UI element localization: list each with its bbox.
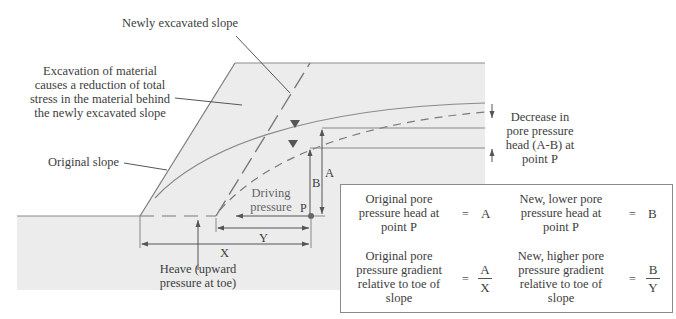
legend-value-a: A xyxy=(481,206,490,222)
leader-original-slope xyxy=(124,163,167,170)
pore-pressure-diagram: Newly excavated slope Excavation of mate… xyxy=(0,0,676,319)
label-driving-pressure: Driving pressure xyxy=(242,186,300,214)
label-heave-note: Heave (upward pressure at toe) xyxy=(153,262,243,290)
label-dimension-a: A xyxy=(325,166,334,180)
label-decrease-note: Decrease in pore pressure head (A-B) at … xyxy=(500,110,580,166)
legend-new-head-text: New, lower pore pressure head at point P xyxy=(511,192,611,234)
legend-equals: = xyxy=(629,207,636,222)
legend-value-b: B xyxy=(648,206,657,222)
legend-fraction-b-over-y: B Y xyxy=(646,262,660,295)
label-newly-excavated-slope: Newly excavated slope xyxy=(122,16,238,30)
legend-fraction-a-over-x: A X xyxy=(478,262,492,295)
label-original-slope: Original slope xyxy=(48,155,119,169)
label-point-p: P xyxy=(300,201,307,215)
legend-new-gradient-text: New, higher pore pressure gradient relat… xyxy=(511,249,611,305)
label-excavation-note: Excavation of material causes a reductio… xyxy=(20,64,180,120)
legend-equals: = xyxy=(462,272,469,287)
label-dimension-b: B xyxy=(312,176,320,190)
legend-equals: = xyxy=(462,207,469,222)
legend-equals: = xyxy=(629,272,636,287)
legend-box: Original pore pressure head at point P =… xyxy=(340,184,673,313)
label-dimension-y: Y xyxy=(259,231,268,245)
label-dimension-x: X xyxy=(220,246,229,260)
legend-original-head-text: Original pore pressure head at point P xyxy=(349,192,449,234)
legend-original-gradient-text: Original pore pressure gradient relative… xyxy=(349,249,449,305)
